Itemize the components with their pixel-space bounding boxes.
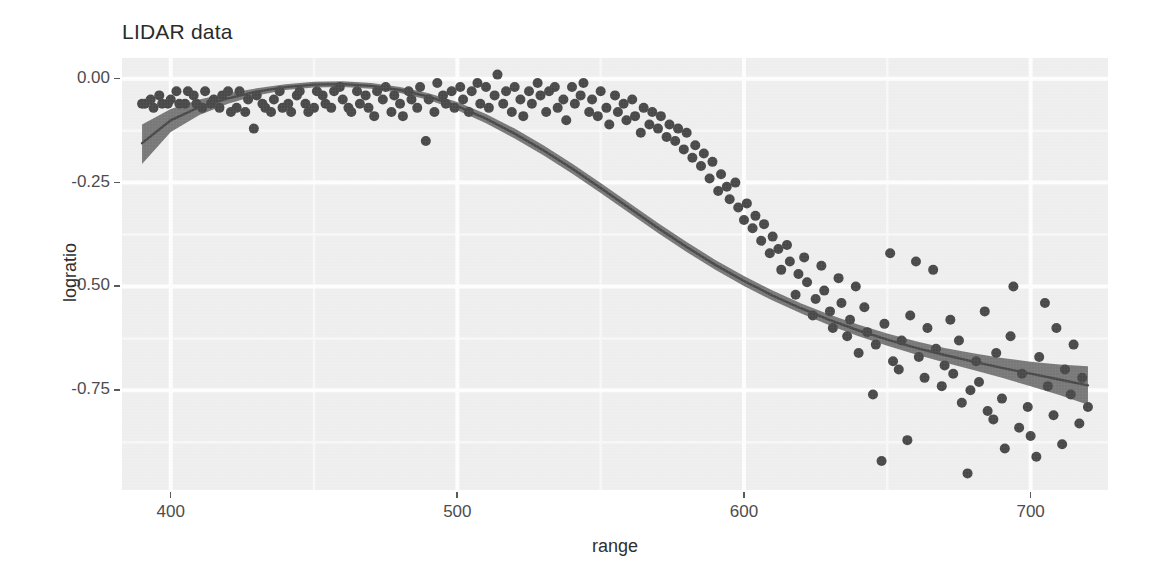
data-point <box>378 95 388 105</box>
data-point <box>630 111 640 121</box>
data-point <box>200 86 210 96</box>
data-point <box>636 128 646 138</box>
data-point <box>673 124 683 134</box>
y-axis-tick-label: 0.00 <box>54 68 110 88</box>
data-point <box>851 281 861 291</box>
data-point <box>859 302 869 312</box>
data-point <box>914 352 924 362</box>
data-point <box>369 111 379 121</box>
data-point <box>773 244 783 254</box>
data-point <box>653 124 663 134</box>
data-point <box>945 315 955 325</box>
data-point <box>398 111 408 121</box>
data-point <box>776 265 786 275</box>
data-point <box>576 90 586 100</box>
data-point <box>621 115 631 125</box>
data-point <box>1006 331 1016 341</box>
data-point <box>656 111 666 121</box>
data-point <box>739 215 749 225</box>
data-point <box>467 86 477 96</box>
data-point <box>948 369 958 379</box>
plot-panel <box>122 58 1108 490</box>
data-point <box>619 99 629 109</box>
data-point <box>879 319 889 329</box>
data-point <box>309 103 319 113</box>
data-point <box>1083 402 1093 412</box>
data-point <box>957 398 967 408</box>
data-point <box>550 82 560 92</box>
data-point <box>252 90 262 100</box>
data-point <box>768 232 778 242</box>
data-point <box>834 273 844 283</box>
data-point <box>235 86 245 96</box>
y-axis-tick-label: -0.25 <box>54 172 110 192</box>
data-point <box>1014 423 1024 433</box>
data-point <box>361 90 371 100</box>
data-point <box>871 340 881 350</box>
data-point <box>963 468 973 478</box>
data-point <box>733 203 743 213</box>
data-point <box>1008 281 1018 291</box>
data-point <box>441 99 451 109</box>
data-point <box>412 103 422 113</box>
data-point <box>742 198 752 208</box>
data-point <box>223 86 233 96</box>
data-point <box>449 103 459 113</box>
data-point <box>988 414 998 424</box>
data-point <box>533 78 543 88</box>
data-point <box>1049 410 1059 420</box>
data-point <box>1066 389 1076 399</box>
x-axis-tick-label: 700 <box>991 502 1071 522</box>
data-point <box>902 435 912 445</box>
data-point <box>395 99 405 109</box>
data-point <box>1034 352 1044 362</box>
data-point <box>845 315 855 325</box>
data-point <box>214 103 224 113</box>
data-point <box>965 385 975 395</box>
data-point <box>458 95 468 105</box>
y-axis-tick-label: -0.75 <box>54 379 110 399</box>
data-point <box>381 82 391 92</box>
data-point <box>940 360 950 370</box>
data-point <box>561 115 571 125</box>
data-point <box>553 103 563 113</box>
data-point <box>232 103 242 113</box>
data-point <box>730 178 740 188</box>
data-point <box>372 86 382 96</box>
data-point <box>601 103 611 113</box>
data-point <box>862 327 872 337</box>
data-point <box>1043 381 1053 391</box>
data-point <box>197 103 207 113</box>
x-axis-tick-label: 600 <box>704 502 784 522</box>
data-point <box>613 107 623 117</box>
y-axis-title: logratio <box>60 213 81 333</box>
data-point <box>696 161 706 171</box>
data-point <box>455 82 465 92</box>
data-point <box>295 86 305 96</box>
data-point <box>983 406 993 416</box>
data-point <box>885 248 895 258</box>
data-point <box>596 86 606 96</box>
data-point <box>687 153 697 163</box>
data-point <box>604 119 614 129</box>
data-point <box>490 90 500 100</box>
data-point <box>931 344 941 354</box>
data-point <box>759 219 769 229</box>
data-point <box>275 86 285 96</box>
data-point <box>535 90 545 100</box>
data-point <box>421 136 431 146</box>
data-point <box>352 86 362 96</box>
x-axis-tick-mark <box>170 492 172 498</box>
data-point <box>524 86 534 96</box>
x-axis-tick-label: 400 <box>131 502 211 522</box>
data-point <box>670 136 680 146</box>
data-point <box>464 107 474 117</box>
data-point <box>748 223 758 233</box>
data-point <box>286 107 296 117</box>
data-point <box>1077 373 1087 383</box>
data-point <box>716 169 726 179</box>
data-point <box>501 86 511 96</box>
data-point <box>578 78 588 88</box>
data-point <box>1057 439 1067 449</box>
data-point <box>713 186 723 196</box>
